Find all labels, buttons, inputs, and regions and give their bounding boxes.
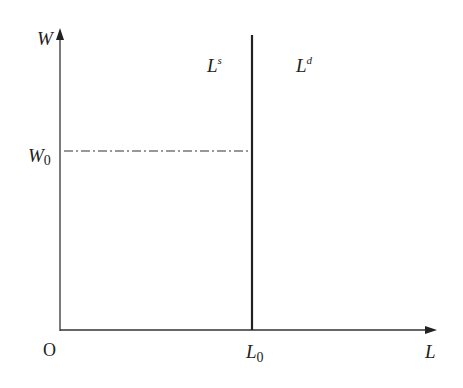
demand-label: Ld <box>295 54 313 76</box>
origin-label: O <box>43 340 56 360</box>
x-axis-arrow-icon <box>425 326 437 334</box>
wage-label: W0 <box>28 145 51 168</box>
y-axis-label: W <box>37 28 55 49</box>
diagram-canvas: W L O Ls Ld W0 L0 <box>0 0 463 388</box>
supply-label: Ls <box>206 54 222 76</box>
quantity-label: L0 <box>245 341 264 365</box>
labor-market-diagram: W L O Ls Ld W0 L0 <box>0 0 463 388</box>
x-axis-label: L <box>424 341 436 362</box>
y-axis-arrow-icon <box>56 28 64 40</box>
